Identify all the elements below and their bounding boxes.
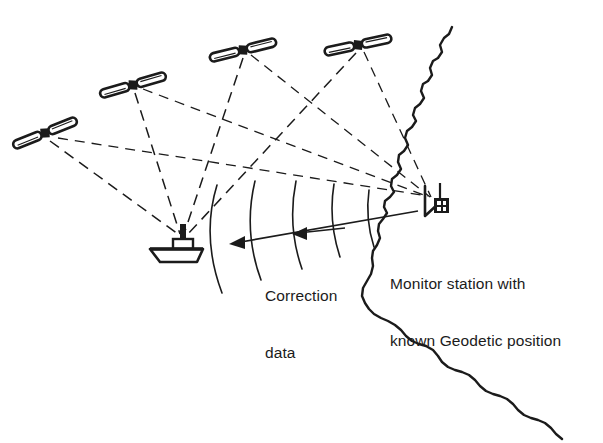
wavefront-arc-1 xyxy=(210,185,222,293)
signal-path-sat3-ship xyxy=(184,58,243,234)
satellite-3 xyxy=(208,33,277,67)
monitor-station-label-line1: Monitor station with xyxy=(390,274,561,293)
signal-path-sat2-ship xyxy=(135,93,180,234)
signal-path-sat4-ship xyxy=(188,53,356,234)
correction-data-label-line1: Correction xyxy=(265,286,338,305)
correction-data-label-line2: data xyxy=(265,343,338,362)
ship-hull xyxy=(150,249,203,262)
monitor-station xyxy=(425,183,449,216)
signal-path-sat2-station xyxy=(143,89,429,197)
signal-paths-to-station xyxy=(58,52,431,197)
wavefront-arc-4 xyxy=(332,184,340,257)
signal-path-sat3-station xyxy=(251,55,430,197)
correction-data-label: Correction data xyxy=(265,248,338,400)
satellite-2 xyxy=(99,69,167,100)
satellite-1 xyxy=(10,116,79,150)
ship-mast xyxy=(180,224,186,240)
station-receiver-box xyxy=(434,198,449,213)
wavefront-arc-2 xyxy=(250,181,261,280)
ship-receiver xyxy=(150,224,203,262)
satellite-4 xyxy=(323,27,393,63)
monitor-station-label-line2: known Geodetic position xyxy=(390,331,561,350)
monitor-station-label: Monitor station with known Geodetic posi… xyxy=(390,236,561,388)
dgps-diagram: Correction data Monitor station with kno… xyxy=(0,0,603,443)
signal-path-sat1-ship xyxy=(50,141,178,234)
